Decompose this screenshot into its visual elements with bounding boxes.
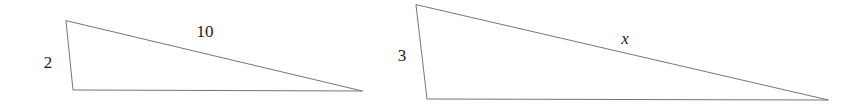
left-triangle-leg-label: 2: [44, 54, 53, 71]
similar-triangles-figure: 2 10 3 x: [0, 0, 861, 106]
left-triangle-hypotenuse-label: 10: [197, 23, 214, 40]
right-triangle-leg-label: 3: [398, 47, 407, 64]
right-triangle-hypotenuse-label: x: [621, 30, 629, 47]
geometry-canvas: [0, 0, 861, 106]
